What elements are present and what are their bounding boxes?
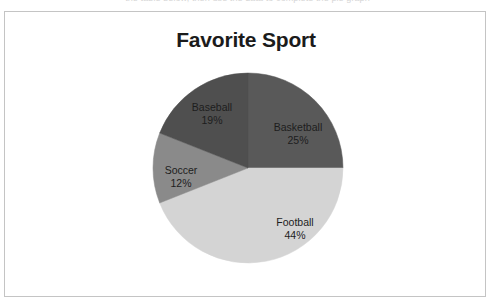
chart-frame: Favorite Sport Basketball 25% Football 4… xyxy=(4,11,486,297)
pie-slice-basketball[interactable] xyxy=(248,73,343,168)
pie-slices xyxy=(153,73,343,263)
pie-chart xyxy=(152,72,344,264)
chart-title: Favorite Sport xyxy=(5,28,487,52)
pie-plot-area: Basketball 25% Football 44% Soccer 12% B… xyxy=(152,72,344,264)
clipped-header-text: the table below, then use the data to co… xyxy=(0,0,495,3)
